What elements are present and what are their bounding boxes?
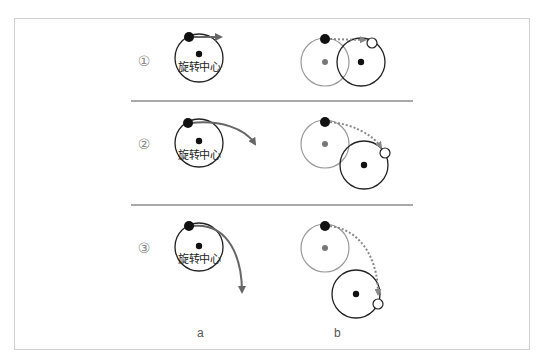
end-point-hollow xyxy=(367,38,377,48)
end-point-hollow xyxy=(373,299,383,309)
original-center-dot xyxy=(322,245,328,251)
start-point-dot xyxy=(320,34,330,44)
step2-column-b xyxy=(301,117,390,189)
moved-center-dot xyxy=(353,291,359,297)
step-label-2: ② xyxy=(135,136,153,152)
step3-column-b xyxy=(301,221,383,318)
moved-center-dot xyxy=(361,162,367,168)
end-point-hollow xyxy=(380,148,390,158)
moving-point-dot xyxy=(184,221,194,231)
step-label-1: ① xyxy=(135,53,153,69)
moving-point-dot xyxy=(184,32,194,42)
rotation-diagram xyxy=(0,0,545,362)
rotation-center-label-2: 旋转中心 xyxy=(178,146,220,162)
column-label-b: b xyxy=(334,326,341,340)
original-center-dot xyxy=(322,141,328,147)
step-label-3: ③ xyxy=(135,240,153,256)
moving-point-dot xyxy=(183,118,193,128)
rotation-center-dot xyxy=(196,138,202,144)
rotation-center-label-3: 旋转中心 xyxy=(178,250,220,266)
start-point-dot xyxy=(320,221,330,231)
rotation-center-dot xyxy=(196,51,202,57)
rotation-center-dot xyxy=(196,243,202,249)
step1-column-b xyxy=(301,34,385,86)
column-label-a: a xyxy=(197,326,204,340)
step1-column-a xyxy=(175,32,223,82)
moved-center-dot xyxy=(358,59,364,65)
dotted-path-arrow xyxy=(330,39,365,40)
original-center-dot xyxy=(322,59,328,65)
rotation-center-label-1: 旋转中心 xyxy=(178,58,220,74)
start-point-dot xyxy=(320,117,330,127)
dotted-path-arrow xyxy=(330,226,378,294)
